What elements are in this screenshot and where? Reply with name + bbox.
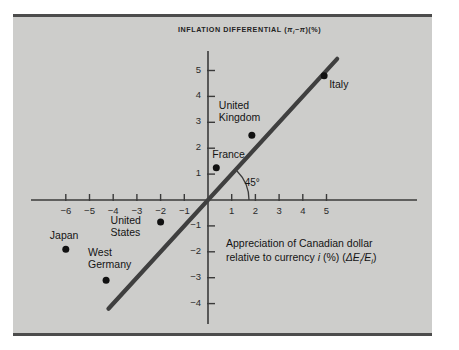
data-point-label-japan: Japan <box>50 230 79 242</box>
x-tick-label: −5 <box>81 206 99 217</box>
data-point-label-line: States <box>111 227 141 239</box>
y-tick-label: 1 <box>184 168 201 179</box>
data-point-label-line: Germany <box>88 259 131 271</box>
x-tick-label: 1 <box>223 206 241 217</box>
data-point-label-line: Kingdom <box>219 112 260 124</box>
x-axis-caption-line1: Appreciation of Canadian dollar <box>226 236 377 250</box>
chart-panel: INFLATION DIFFERENTIAL (πi−π)(%) Appreci… <box>13 14 432 336</box>
figure-root: INFLATION DIFFERENTIAL (πi−π)(%) Appreci… <box>0 0 459 350</box>
y-tick-label: −3 <box>184 272 201 283</box>
angle-label-45deg: 45° <box>245 177 260 188</box>
reference-line-45deg <box>108 59 337 309</box>
data-point-label-france: France <box>212 149 245 161</box>
x-axis-caption: Appreciation of Canadian dollar relative… <box>226 236 377 267</box>
y-tick-label: 5 <box>184 65 201 76</box>
y-tick-label: −1 <box>184 220 201 231</box>
data-point-label-italy: Italy <box>329 79 348 91</box>
data-point-label-line: France <box>212 149 245 161</box>
x-tick-label: −1 <box>175 206 193 217</box>
chart-title: INFLATION DIFFERENTIAL (πi−π)(%) <box>178 26 321 36</box>
data-point-label-line: Japan <box>50 230 79 242</box>
data-point-label-west-germany: WestGermany <box>88 247 131 271</box>
x-tick-label: −6 <box>57 206 75 217</box>
x-tick-label: −2 <box>152 206 170 217</box>
y-tick-label: −4 <box>184 298 201 309</box>
x-tick-label: 3 <box>270 206 288 217</box>
data-point-label-united-kingdom: UnitedKingdom <box>219 100 260 124</box>
data-point-label-united-states: UnitedStates <box>111 215 141 239</box>
y-tick-label: −2 <box>184 246 201 257</box>
y-tick-label: 3 <box>184 116 201 127</box>
x-axis-caption-line2: relative to currency i (%) (ΔEi/Ei) <box>226 250 377 267</box>
y-tick-label: 4 <box>184 90 201 101</box>
x-tick-label: 4 <box>294 206 312 217</box>
x-tick-label: 5 <box>318 206 336 217</box>
chart-plot-area <box>13 17 432 339</box>
y-tick-label: 2 <box>184 142 201 153</box>
x-tick-label: 2 <box>246 206 264 217</box>
data-point-label-line: Italy <box>329 79 348 91</box>
